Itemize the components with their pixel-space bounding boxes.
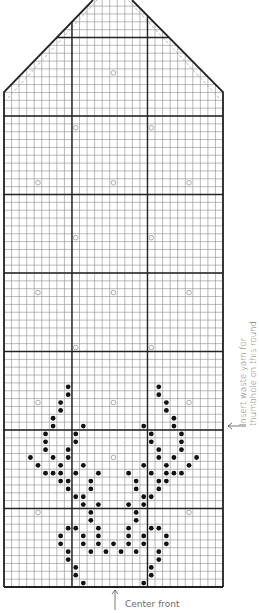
decrease-guide-dashed-lines [8, 0, 219, 98]
center-front-label: Center front [125, 599, 180, 609]
thumbhole-note-line1: Insert waste yarn for [238, 321, 248, 426]
mitten-chart [0, 0, 259, 613]
thumbhole-note-line2: thumbhole on this round [248, 321, 258, 426]
thumbhole-note: Insert waste yarn for thumbhole on this … [238, 321, 258, 426]
open-circle-stitches [36, 71, 192, 515]
